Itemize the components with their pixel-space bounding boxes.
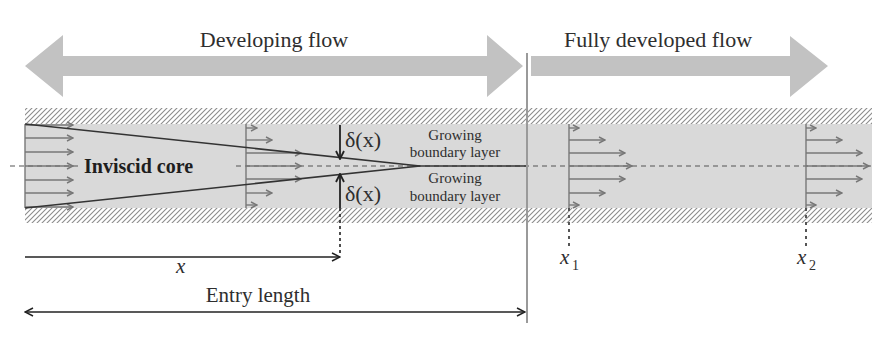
growing-bl-bottom-line2: boundary layer — [410, 188, 500, 204]
flow-diagram: Developing flow Fully developed flow — [0, 0, 893, 337]
growing-bl-bottom-line1: Growing — [428, 170, 482, 186]
fully-developed-flow-label: Fully developed flow — [564, 27, 752, 52]
delta-top-label: δ(x) — [345, 127, 381, 152]
x-distance-label: x — [175, 254, 186, 278]
delta-bottom-label: δ(x) — [345, 181, 381, 206]
growing-bl-top-line2: boundary layer — [410, 144, 500, 160]
station-x1-subscript: 1 — [572, 258, 579, 273]
station-x1-var: x — [559, 245, 570, 269]
top-wall-hatch — [25, 108, 872, 124]
bottom-wall-hatch — [25, 208, 872, 223]
entry-length-label: Entry length — [206, 283, 311, 307]
inviscid-core-label: Inviscid core — [84, 155, 193, 177]
growing-bl-top-line1: Growing — [428, 127, 482, 143]
station-x2-subscript: 2 — [809, 258, 816, 273]
developing-flow-label: Developing flow — [200, 27, 349, 52]
station-x2-var: x — [796, 245, 807, 269]
